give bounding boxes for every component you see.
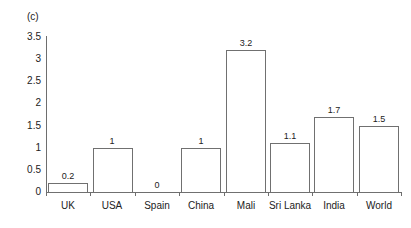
bar-value-label: 3.2: [224, 38, 268, 48]
y-axis-tick-label: 0.5: [0, 165, 41, 175]
y-axis-tick-label: 0: [0, 187, 41, 197]
x-axis-tick-mark: [46, 192, 47, 196]
x-axis-tick-mark: [312, 192, 313, 196]
bar-value-label: 1.5: [357, 114, 401, 124]
bar-value-label: 0.2: [46, 171, 90, 181]
y-axis-tick-label-text: 2.5: [0, 76, 41, 86]
y-axis-tick-label-text: 1.5: [0, 121, 41, 131]
x-axis-tick-mark: [224, 192, 225, 196]
y-axis-tick-label: 3: [0, 54, 41, 64]
x-axis-tick-mark: [401, 192, 402, 196]
x-axis-tick-mark: [357, 192, 358, 196]
y-axis-tick-label-text: 2: [0, 98, 41, 108]
y-axis-tick-label-text: 1: [0, 143, 41, 153]
y-axis-tick-label: 3.5: [0, 32, 41, 42]
figure-panel-c: (c) 3.532.521.510.50 0.21013.21.11.71.5 …: [0, 0, 411, 228]
y-axis-line: [46, 36, 47, 193]
bar: [359, 126, 399, 193]
x-axis-tick-mark: [135, 192, 136, 196]
y-axis-tick-label-text: 3: [0, 54, 41, 64]
x-axis-tick-mark: [179, 192, 180, 196]
bar: [93, 148, 133, 193]
y-axis-tick-label: 2: [0, 98, 41, 108]
bar: [226, 50, 266, 193]
bar-value-label: 1: [179, 136, 223, 146]
y-axis-tick-label: 2.5: [0, 76, 41, 86]
bar: [181, 148, 221, 193]
y-axis-tick-label: 1.5: [0, 121, 41, 131]
x-axis-tick-mark: [268, 192, 269, 196]
bar-value-label: 1.1: [268, 131, 312, 141]
x-axis-tick-mark: [90, 192, 91, 196]
x-axis-category-label: World: [349, 200, 409, 212]
bar-value-label: 0: [135, 180, 179, 190]
y-axis-tick-label-text: 0.5: [0, 165, 41, 175]
y-axis-tick-label: 1: [0, 143, 41, 153]
y-axis-tick-label-text: 3.5: [0, 32, 41, 42]
y-axis-tick-label-text: 0: [0, 187, 41, 197]
bar: [270, 143, 310, 193]
bar-value-label: 1: [90, 136, 134, 146]
bar-value-label: 1.7: [312, 105, 356, 115]
bar: [48, 183, 88, 193]
bar: [314, 117, 354, 193]
bar-chart: 3.532.521.510.50 0.21013.21.11.71.5 UKUS…: [0, 0, 411, 228]
